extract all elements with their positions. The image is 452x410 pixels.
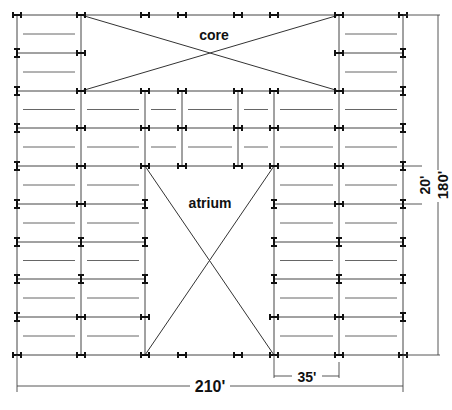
column-icon xyxy=(270,12,278,18)
dimension-20: 20' xyxy=(417,176,433,195)
dimension-210: 210' xyxy=(195,378,226,395)
column-icon xyxy=(234,352,242,358)
floor-plan: core atrium 210' 35' 20' 180' xyxy=(0,0,452,410)
column-icon xyxy=(234,12,242,18)
dimension-35: 35' xyxy=(298,369,317,385)
joists-layer xyxy=(23,34,397,336)
column-icon xyxy=(178,352,186,358)
column-icon xyxy=(178,12,186,18)
core-label: core xyxy=(199,27,229,43)
dimension-180: 180' xyxy=(434,171,451,200)
column-icon xyxy=(141,12,149,18)
atrium-label: atrium xyxy=(189,195,232,211)
